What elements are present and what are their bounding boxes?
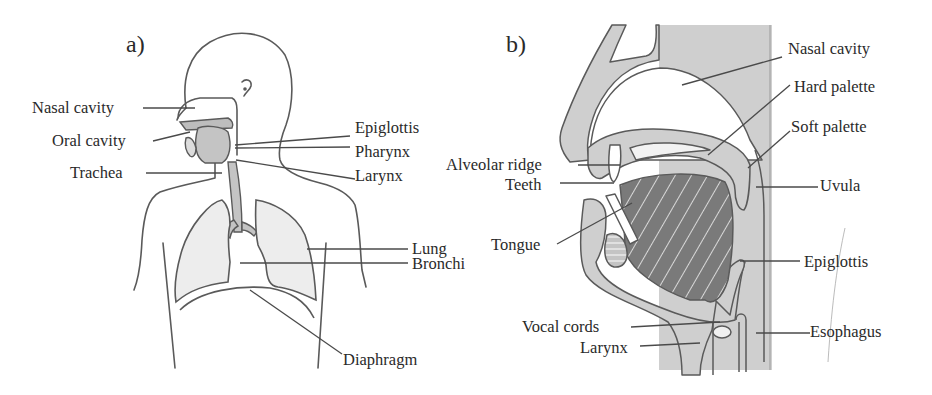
label-b-alveolar-ridge: Alveolar ridge [446, 157, 542, 174]
label-b-tongue: Tongue [491, 237, 540, 254]
lung-right [256, 200, 316, 300]
label-a-nasal-cavity: Nasal cavity [32, 100, 114, 117]
label-b-hard-palette: Hard palette [794, 79, 875, 96]
diagram-canvas [0, 0, 932, 395]
label-a-trachea: Trachea [70, 165, 123, 182]
lung-left [175, 200, 230, 302]
label-b-soft-palette: Soft palette [791, 119, 867, 136]
label-a-larynx: Larynx [355, 168, 403, 185]
panel-b-tag: b) [506, 32, 526, 56]
teeth-upper [609, 145, 621, 182]
vocal-cords-shape [713, 326, 731, 338]
panel-a-figure [134, 33, 366, 368]
label-a-diaphragm: Diaphragm [343, 352, 417, 369]
chin-pocket [605, 234, 627, 268]
label-b-uvula: Uvula [820, 178, 860, 195]
trachea [226, 162, 257, 238]
label-a-epiglottis: Epiglottis [355, 120, 419, 137]
panel-a-tag: a) [126, 32, 145, 56]
oral-region [180, 118, 233, 163]
label-b-teeth: Teeth [505, 177, 541, 194]
label-a-pharynx: Pharynx [355, 144, 410, 161]
label-a-oral-cavity: Oral cavity [52, 133, 126, 150]
lungs [175, 200, 316, 318]
label-b-epiglottis: Epiglottis [804, 254, 868, 271]
label-b-nasal-cavity: Nasal cavity [788, 41, 870, 58]
ear-icon [242, 80, 251, 96]
label-b-esophagus: Esophagus [810, 324, 882, 341]
label-b-vocal-cords: Vocal cords [522, 319, 599, 336]
label-b-larynx: Larynx [580, 340, 628, 357]
label-a-bronchi: Bronchi [412, 256, 465, 273]
